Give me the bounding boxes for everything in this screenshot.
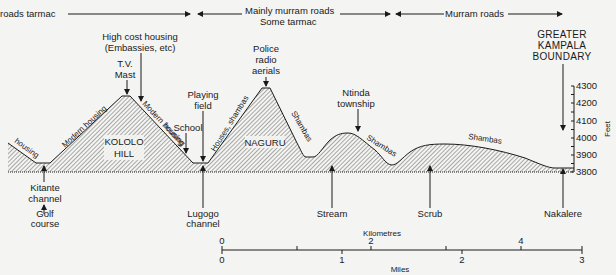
playing-field-label-1: Playing xyxy=(187,89,218,100)
boundary-label-2: KAMPALA xyxy=(538,40,587,51)
school-label: School xyxy=(173,122,202,133)
road-band-murram-roads-label: Murram roads xyxy=(445,8,504,19)
mile-tick-2: 2 xyxy=(459,254,464,265)
miles-label: Miles xyxy=(391,265,410,274)
road-band-murram-label-1: Mainly murram roads xyxy=(245,5,334,16)
mile-tick-1: 1 xyxy=(339,254,344,265)
bottom-labels: Kitante channel Golf course Lugogo chann… xyxy=(28,166,582,229)
height-tick-3900: 3900 xyxy=(576,149,597,160)
golf-course-label-2: course xyxy=(31,218,60,229)
height-tick-4300: 4300 xyxy=(576,80,597,91)
police-aerials-label-3: aerials xyxy=(252,65,280,76)
mile-tick-3: 3 xyxy=(579,254,584,265)
stream-label: Stream xyxy=(317,208,348,219)
police-aerials-label-2: radio xyxy=(255,54,276,65)
scale-bar: Kilometres 0 2 4 0 1 2 3 Miles xyxy=(219,229,584,274)
kololo-hill-label-2: HILL xyxy=(114,148,134,159)
naguru-label: NAGURU xyxy=(244,137,285,148)
nakalere-label: Nakalere xyxy=(544,208,582,219)
km-tick-2: 2 xyxy=(368,235,373,246)
ntinda-label-1: Ntinda xyxy=(342,87,370,98)
ntinda-label-2: township xyxy=(337,98,375,109)
high-cost-housing-label-1: High cost housing xyxy=(102,31,178,42)
km-tick-0: 0 xyxy=(219,235,224,246)
road-band-tarmac-label: roads tarmac xyxy=(0,8,56,19)
road-bands: roads tarmac Mainly murram roads Some ta… xyxy=(0,5,562,27)
kitante-label-1: Kitante xyxy=(30,182,60,193)
boundary-label-3: BOUNDARY xyxy=(533,51,592,62)
height-tick-3800: 3800 xyxy=(576,166,597,177)
kitante-label-2: channel xyxy=(28,193,61,204)
terrain-profile xyxy=(8,88,574,172)
height-tick-4000: 4000 xyxy=(576,132,597,143)
height-axis: 4300 4200 4100 4000 3900 3800 Feet xyxy=(571,80,612,177)
scrub-label: Scrub xyxy=(418,208,443,219)
playing-field-label-2: field xyxy=(194,100,211,111)
tv-mast-label-1: T.V. xyxy=(117,58,133,69)
height-tick-4100: 4100 xyxy=(576,115,597,126)
height-tick-4200: 4200 xyxy=(576,97,597,108)
road-band-murram-label-2: Some tarmac xyxy=(260,16,317,27)
kololo-hill-label-1: KOLOLO xyxy=(104,136,143,147)
cross-section-diagram: roads tarmac Mainly murram roads Some ta… xyxy=(0,0,616,275)
lugogo-label-2: channel xyxy=(186,218,219,229)
mile-tick-0: 0 xyxy=(219,254,224,265)
high-cost-housing-label-2: (Embassies, etc) xyxy=(105,42,176,53)
police-aerials-label-1: Police xyxy=(253,43,279,54)
boundary-label-1: GREATER xyxy=(537,29,587,40)
height-axis-unit: Feet xyxy=(603,120,612,137)
slope-label-shambas-east: Shambas xyxy=(468,132,503,146)
tv-mast-label-2: Mast xyxy=(115,69,136,80)
km-tick-4: 4 xyxy=(518,235,523,246)
